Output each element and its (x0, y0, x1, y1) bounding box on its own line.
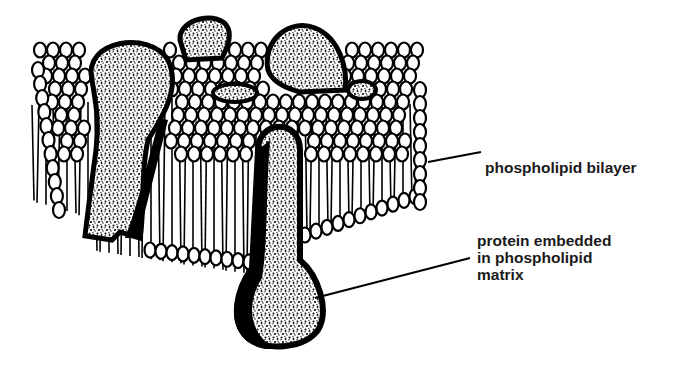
label-line: in phospholipid (477, 249, 611, 266)
bilayer-pointer-line (428, 152, 481, 162)
embedded-protein-patch (213, 84, 257, 102)
label-protein-embedded: protein embedded in phospholipid matrix (477, 232, 611, 283)
protein-pointer-line (315, 258, 470, 298)
label-line: matrix (477, 266, 611, 283)
peripheral-protein-top-right (267, 26, 345, 92)
label-phospholipid-bilayer: phospholipid bilayer (485, 159, 637, 176)
membrane-diagram (0, 0, 673, 369)
embedded-protein-patch (348, 81, 376, 99)
peripheral-protein-top-center (180, 18, 229, 60)
label-line: protein embedded (477, 232, 611, 249)
